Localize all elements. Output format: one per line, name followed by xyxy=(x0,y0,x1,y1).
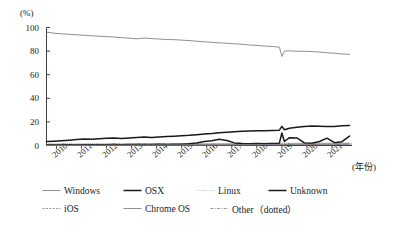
chart-legend: WindowsOSXLinuxUnknown iOSChrome OSOther… xyxy=(0,180,401,236)
legend-label: OSX xyxy=(145,186,164,196)
plot-area: (%) (年份) 020406080100 201020112012201320… xyxy=(0,0,401,178)
legend-item-windows[interactable]: Windows xyxy=(42,182,100,199)
legend-label: Windows xyxy=(64,186,100,196)
legend-swatch-thin-solid-icon xyxy=(123,204,142,213)
legend-label: Other（dotted） xyxy=(232,202,297,216)
legend-swatch-dash-dot-thin-icon xyxy=(210,204,229,213)
legend-item-osx[interactable]: OSX xyxy=(123,182,164,199)
legend-swatch-thick-solid-icon xyxy=(268,186,287,195)
legend-label: Linux xyxy=(218,186,241,196)
legend-label: iOS xyxy=(64,204,79,214)
line-chart: (%) (年份) 020406080100 201020112012201320… xyxy=(0,0,401,236)
legend-row-2: iOSChrome OSOther（dotted） xyxy=(0,200,401,217)
series-lines xyxy=(47,32,350,145)
legend-item-linux[interactable]: Linux xyxy=(196,182,241,199)
legend-label: Unknown xyxy=(290,186,327,196)
series-line-windows xyxy=(47,32,350,56)
legend-item-unknown[interactable]: Unknown xyxy=(268,182,327,199)
legend-swatch-thin-solid-icon xyxy=(42,186,61,195)
legend-row-1: WindowsOSXLinuxUnknown xyxy=(0,182,401,199)
legend-swatch-dotted-thin-icon xyxy=(196,186,215,195)
axes xyxy=(47,28,353,149)
legend-swatch-thick-solid-icon xyxy=(123,186,142,195)
legend-swatch-dashed-thin-icon xyxy=(42,204,61,213)
legend-item-other-dotted[interactable]: Other（dotted） xyxy=(210,200,297,217)
legend-label: Chrome OS xyxy=(145,204,190,214)
chart-canvas xyxy=(0,0,401,178)
legend-item-ios[interactable]: iOS xyxy=(42,200,79,217)
legend-item-chrome-os[interactable]: Chrome OS xyxy=(123,200,190,217)
series-line-osx xyxy=(47,125,350,141)
